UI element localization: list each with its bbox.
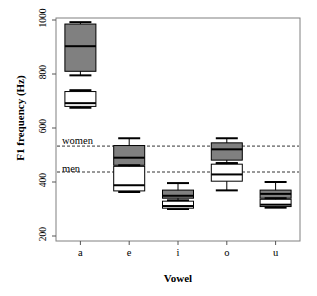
box-women-o [211,138,242,163]
y-tick-label: 200 [38,219,48,249]
y-tick-label: 1000 [38,3,48,33]
box-rect [114,146,145,166]
x-tick-label: u [264,247,288,258]
x-tick-label: i [166,247,190,258]
box-men-u [260,198,291,207]
y-tick-label: 400 [38,165,48,195]
box-men-o [211,163,242,190]
y-tick-label: 800 [38,57,48,87]
box-rect [211,143,242,160]
boxplot-figure: F1 frequency (Hz) Vowel women men 200400… [0,0,317,296]
box-men-i [163,200,194,209]
box-rect [114,166,145,191]
box-rect [163,190,194,198]
box-rect [65,24,96,71]
box-women-a [65,22,96,75]
box-women-e [114,138,145,168]
box-men-a [65,90,96,108]
box-women-i [163,183,194,201]
box-rect [65,92,96,107]
x-tick-label: o [215,247,239,258]
box-rect [163,201,194,208]
box-men-e [114,165,145,192]
x-tick-label: a [68,247,92,258]
y-tick-label: 600 [38,111,48,141]
x-tick-label: e [117,247,141,258]
box-rect [211,164,242,181]
